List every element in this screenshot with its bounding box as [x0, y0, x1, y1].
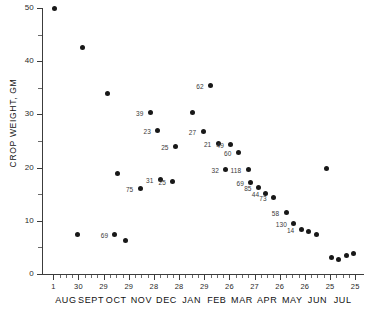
y-tick-label-40: 40 [14, 56, 34, 65]
data-point-label: 60 [224, 150, 231, 157]
plot-area: 7569392325312527622149326011869854473581… [42, 8, 364, 274]
data-point [223, 167, 228, 172]
y-tick-label-10: 10 [14, 216, 34, 225]
data-point-label: 69 [101, 232, 108, 239]
x-minor-tick-8-1 [261, 275, 262, 278]
x-minor-tick-5-1 [185, 275, 186, 278]
x-day-label-9: 26 [267, 282, 293, 291]
x-minor-tick-8-3 [273, 275, 274, 278]
data-point [112, 232, 117, 237]
data-point-label: 73 [259, 195, 266, 202]
x-minor-tick-11-2 [343, 275, 344, 278]
data-point [123, 238, 128, 243]
x-tick-6 [204, 275, 205, 280]
x-tick-1 [78, 275, 79, 280]
x-day-label-1: 30 [65, 282, 91, 291]
x-minor-tick-3-1 [135, 275, 136, 278]
x-day-label-10: 26 [292, 282, 318, 291]
x-day-label-11: 25 [317, 282, 343, 291]
x-tick-9 [280, 275, 281, 280]
data-point-label: 62 [196, 83, 203, 90]
x-tick-5 [179, 275, 180, 280]
x-day-label-7: 26 [216, 282, 242, 291]
x-minor-tick-2-2 [116, 275, 117, 278]
x-minor-tick-8-2 [267, 275, 268, 278]
x-day-label-5: 28 [166, 282, 192, 291]
data-point [115, 171, 120, 176]
data-point [256, 185, 261, 190]
data-point [155, 128, 160, 133]
data-point [201, 129, 206, 134]
data-point [284, 210, 289, 215]
x-day-label-12: 25 [342, 282, 368, 291]
data-point-label: 49 [216, 142, 223, 149]
x-minor-tick-10-1 [311, 275, 312, 278]
data-point [299, 227, 304, 232]
data-point [190, 110, 195, 115]
data-point [138, 186, 143, 191]
x-minor-tick-4-1 [160, 275, 161, 278]
data-point [105, 91, 110, 96]
x-day-label-8: 27 [242, 282, 268, 291]
data-point [236, 150, 241, 155]
x-tick-7 [229, 275, 230, 280]
data-point [80, 45, 85, 50]
data-point [271, 195, 276, 200]
x-minor-tick-10-3 [324, 275, 325, 278]
x-minor-tick-6-2 [217, 275, 218, 278]
x-minor-tick-9-2 [292, 275, 293, 278]
data-point-label: 21 [204, 141, 211, 148]
x-minor-tick-9-3 [299, 275, 300, 278]
x-minor-tick-4-2 [167, 275, 168, 278]
scatter-chart-figure: CROP WEIGHT, GM 01020304050 130292928282… [0, 0, 374, 323]
data-point-label: 75 [126, 186, 133, 193]
x-minor-tick-1-2 [91, 275, 92, 278]
data-point-label: 14 [287, 227, 294, 234]
x-minor-tick-7-1 [236, 275, 237, 278]
data-point-label: 25 [161, 144, 168, 151]
x-minor-tick-5-2 [192, 275, 193, 278]
x-minor-tick-11-1 [336, 275, 337, 278]
x-tick-8 [255, 275, 256, 280]
y-tick-label-30: 30 [14, 109, 34, 118]
x-minor-tick-6-1 [211, 275, 212, 278]
y-tick-label-0: 0 [14, 269, 34, 278]
x-minor-tick-1-1 [85, 275, 86, 278]
data-point [52, 6, 57, 11]
x-day-label-0: 1 [40, 282, 66, 291]
data-point [329, 255, 334, 260]
x-tick-11 [330, 275, 331, 280]
x-minor-tick-0-2 [66, 275, 67, 278]
x-minor-tick-4-3 [173, 275, 174, 278]
x-tick-0 [53, 275, 54, 280]
x-minor-tick-0-3 [72, 275, 73, 278]
x-month-label-jul: JUL [323, 295, 363, 305]
data-point-label: 44 [252, 191, 259, 198]
x-minor-tick-7-3 [248, 275, 249, 278]
data-point [208, 83, 213, 88]
y-tick-label-20: 20 [14, 163, 34, 172]
x-minor-tick-9-1 [286, 275, 287, 278]
x-day-label-6: 29 [191, 282, 217, 291]
x-day-label-2: 29 [91, 282, 117, 291]
x-tick-3 [129, 275, 130, 280]
data-point-label: 31 [146, 177, 153, 184]
data-point [291, 221, 296, 226]
data-point [344, 253, 349, 258]
x-tick-4 [154, 275, 155, 280]
data-point-label: 25 [159, 179, 166, 186]
x-minor-tick-7-2 [242, 275, 243, 278]
x-minor-tick-6-3 [223, 275, 224, 278]
x-minor-tick-3-3 [148, 275, 149, 278]
data-point [148, 110, 153, 115]
y-tick-0 [37, 274, 42, 275]
data-point-label: 39 [136, 110, 143, 117]
x-minor-tick-10-2 [317, 275, 318, 278]
data-point [75, 232, 80, 237]
data-point-label: 118 [230, 167, 241, 174]
data-point [351, 251, 356, 256]
x-tick-10 [305, 275, 306, 280]
data-point [324, 166, 329, 171]
data-point-label: 85 [244, 185, 251, 192]
x-day-label-3: 29 [116, 282, 142, 291]
